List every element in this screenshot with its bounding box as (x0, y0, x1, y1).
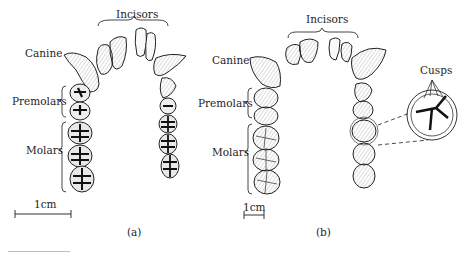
panel-a-teeth (64, 16, 186, 192)
caption-b: (b) (316, 227, 331, 238)
label-canine-b: Canine (212, 55, 249, 66)
dental-arch-illustration (0, 0, 466, 254)
caption-a: (a) (127, 227, 141, 238)
label-premolars-b: Premolars (198, 98, 253, 109)
panel-b-teeth (250, 28, 386, 194)
scale-label-a: 1cm (34, 199, 57, 210)
label-canine-a: Canine (25, 48, 62, 59)
label-incisors-b: Incisors (306, 14, 348, 25)
scale-bar-a (15, 210, 71, 218)
incisors-bracket-b (288, 28, 358, 38)
label-cusps: Cusps (420, 65, 452, 76)
label-molars-a: Molars (26, 145, 63, 156)
footnote-rule (8, 251, 70, 252)
label-molars-b: Molars (212, 147, 249, 158)
label-incisors-a: Incisors (116, 9, 158, 20)
cusps-detail (378, 80, 457, 145)
scale-label-b: 1cm (243, 202, 266, 213)
label-premolars-a: Premolars (12, 96, 67, 107)
